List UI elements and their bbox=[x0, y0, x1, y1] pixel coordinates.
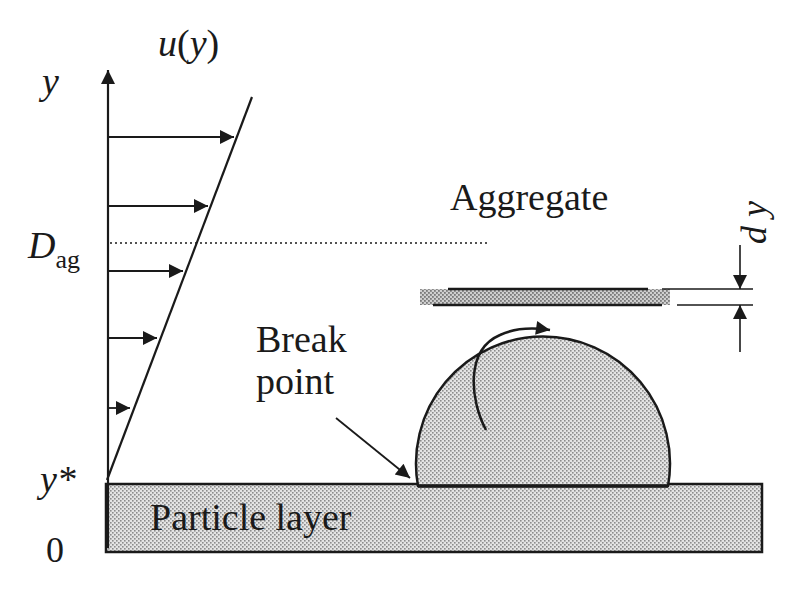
y-star-label: y* bbox=[36, 458, 76, 500]
aggregate-body bbox=[416, 337, 670, 486]
dy-dimension bbox=[662, 245, 753, 352]
break-point-label-line2: point bbox=[256, 360, 335, 402]
diagram-canvas: u(y) y Dag y* 0 Aggregate d y Break poin… bbox=[0, 0, 800, 595]
zero-label: 0 bbox=[46, 530, 64, 570]
velocity-profile-label: u(y) bbox=[158, 22, 219, 65]
aggregate-label: Aggregate bbox=[450, 176, 608, 218]
shear-profile-line bbox=[107, 97, 252, 480]
break-point-arrow bbox=[336, 418, 410, 478]
break-point-label-line1: Break bbox=[256, 318, 347, 360]
d-ag-label: Dag bbox=[27, 224, 80, 274]
velocity-arrows bbox=[108, 137, 234, 408]
dy-label: d y bbox=[734, 201, 774, 244]
y-axis-label: y bbox=[38, 60, 59, 102]
particle-layer-label: Particle layer bbox=[150, 496, 352, 538]
